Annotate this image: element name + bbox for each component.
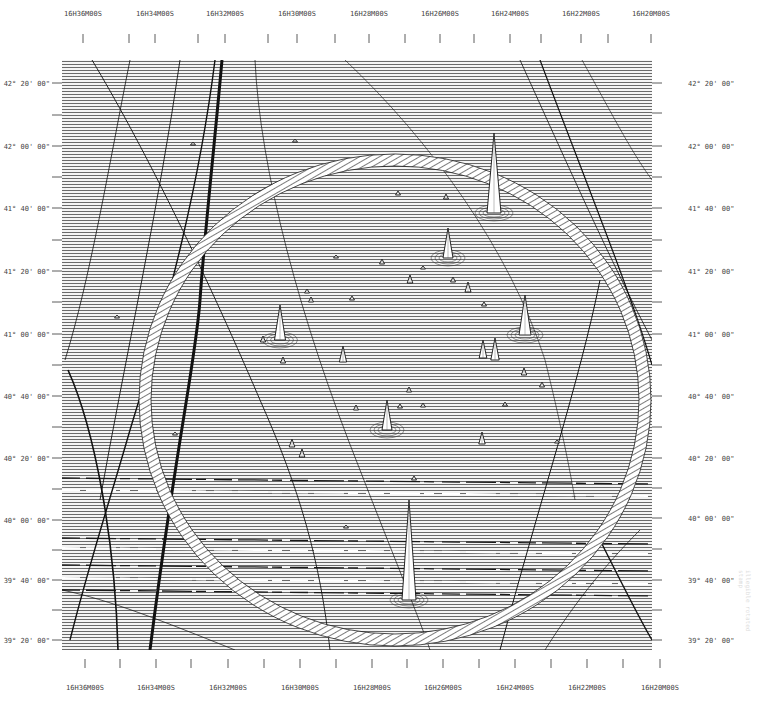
- y-tick-label: 42° 20' 00": [4, 80, 50, 88]
- x-tick-label: 16H26M00S: [421, 10, 459, 18]
- y-tick-label: 40° 40' 00": [4, 393, 50, 401]
- margin-stamp: illegible rotated stamp: [738, 570, 752, 642]
- y-tick-label: 39° 40' 00": [4, 577, 50, 585]
- x-tick-label: 16H30M00S: [281, 684, 319, 692]
- x-tick-label: 16H26M00S: [424, 684, 462, 692]
- x-tick-label: 16H34M00S: [136, 10, 174, 18]
- x-axis-top: 16H36M00S16H34M00S16H32M00S16H30M00S16H2…: [64, 10, 670, 43]
- y-tick-label: 41° 00' 00": [4, 331, 50, 339]
- y-tick-label: 41° 40' 00": [688, 205, 734, 213]
- y-tick-label: 40° 00' 00": [688, 515, 734, 523]
- x-tick-label: 16H22M00S: [568, 684, 606, 692]
- x-tick-label: 16H24M00S: [496, 684, 534, 692]
- y-tick-label: 42° 00' 00": [688, 143, 734, 151]
- y-axis-right: 42° 20' 00"42° 00' 00"41° 40' 00"41° 20'…: [652, 80, 734, 645]
- x-tick-label: 16H28M00S: [353, 684, 391, 692]
- x-tick-label: 16H36M00S: [66, 684, 104, 692]
- y-tick-label: 39° 40' 00": [688, 577, 734, 585]
- x-tick-label: 16H34M00S: [137, 684, 175, 692]
- y-tick-label: 42° 20' 00": [688, 80, 734, 88]
- x-tick-label: 16H28M00S: [350, 10, 388, 18]
- radio-map-chart: 16H36M00S16H34M00S16H32M00S16H30M00S16H2…: [0, 0, 760, 716]
- y-tick-label: 40° 20' 00": [688, 455, 734, 463]
- y-axis-left: 42° 20' 00"42° 00' 00"41° 40' 00"41° 20'…: [4, 80, 62, 645]
- y-tick-label: 41° 20' 00": [688, 268, 734, 276]
- y-tick-label: 40° 20' 00": [4, 455, 50, 463]
- x-tick-label: 16H36M00S: [64, 10, 102, 18]
- y-tick-label: 40° 00' 00": [4, 517, 50, 525]
- x-tick-label: 16H20M00S: [641, 684, 679, 692]
- y-tick-label: 41° 00' 00": [688, 331, 734, 339]
- y-tick-label: 41° 40' 00": [4, 205, 50, 213]
- y-tick-label: 40° 40' 00": [688, 393, 734, 401]
- x-tick-label: 16H30M00S: [278, 10, 316, 18]
- x-tick-label: 16H32M00S: [206, 10, 244, 18]
- x-tick-label: 16H22M00S: [562, 10, 600, 18]
- x-tick-label: 16H32M00S: [209, 684, 247, 692]
- y-tick-label: 41° 20' 00": [4, 268, 50, 276]
- y-tick-label: 39° 20' 00": [688, 637, 734, 645]
- x-tick-label: 16H20M00S: [632, 10, 670, 18]
- y-tick-label: 39° 20' 00": [4, 637, 50, 645]
- x-tick-label: 16H24M00S: [491, 10, 529, 18]
- y-tick-label: 42° 00' 00": [4, 143, 50, 151]
- x-axis-bottom: 16H36M00S16H34M00S16H32M00S16H30M00S16H2…: [66, 659, 679, 692]
